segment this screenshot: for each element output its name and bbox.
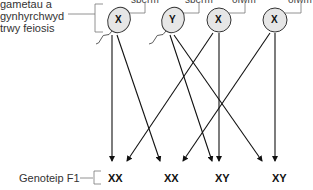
sperm-tail-2 — [149, 31, 166, 44]
sperm-tail-1 — [96, 31, 112, 44]
gamete-chromosome-2: Y — [169, 14, 176, 25]
f1-genotype-1: XX — [108, 172, 123, 184]
gamete-chromosome-1: X — [115, 14, 122, 25]
f1-genotype-2: XX — [164, 172, 179, 184]
gamete-chromosome-3: X — [215, 14, 222, 25]
left-label: gametau a gynhyrchwyd trwy feiosis — [0, 0, 64, 34]
gamete-label-2: sberm — [185, 0, 213, 6]
gamete-label-3: ofwm — [232, 0, 256, 6]
gamete-label-4: ofwm — [288, 0, 312, 6]
f1-label: Genoteip F1 — [19, 172, 80, 184]
gamete-chromosome-4: X — [271, 14, 278, 25]
f1-genotype-4: XY — [272, 172, 287, 184]
gamete-bracket — [68, 4, 103, 32]
f1-genotype-3: XY — [215, 172, 230, 184]
gamete-label-1: sberm — [131, 0, 159, 6]
